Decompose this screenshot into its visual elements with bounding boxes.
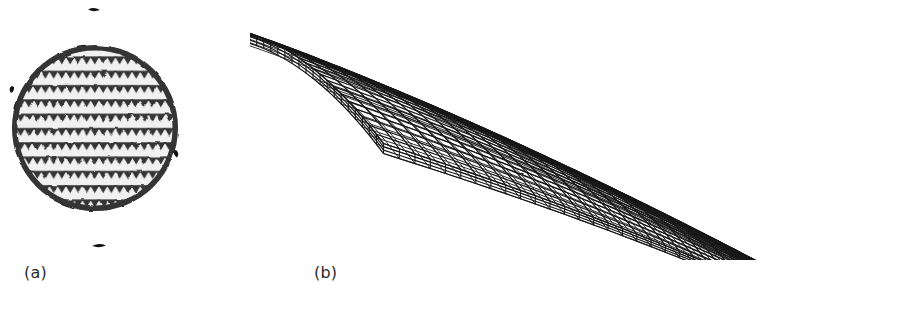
- photo-grain-overlay: [12, 45, 178, 211]
- panel-a-caption: (a): [24, 263, 47, 282]
- figure-root: (a) (b): [0, 0, 918, 311]
- panel-b-caption: (b): [314, 263, 337, 282]
- figure-panel-b: (b): [250, 0, 918, 311]
- isogrid-disc-image: [0, 0, 250, 260]
- figure-panel-a: (a): [0, 0, 250, 311]
- curved-shell-mesh-wireframe: [250, 0, 918, 260]
